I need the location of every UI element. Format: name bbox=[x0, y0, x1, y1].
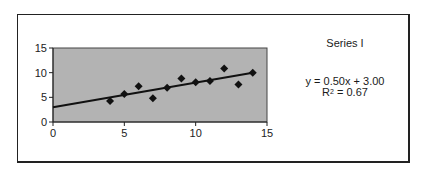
y-tick-label: 0 bbox=[41, 116, 47, 128]
x-tick-label: 10 bbox=[190, 127, 202, 139]
r-squared-text: R2 = 0.67 bbox=[280, 87, 410, 98]
x-tick-label: 0 bbox=[50, 127, 56, 139]
y-tick-label: 10 bbox=[35, 67, 47, 79]
y-tick-label: 15 bbox=[35, 42, 47, 54]
x-tick-label: 15 bbox=[261, 127, 273, 139]
series-title: Series I bbox=[300, 37, 390, 49]
regression-annotation: y = 0.50x + 3.00 R2 = 0.67 bbox=[280, 76, 410, 98]
y-tick-label: 5 bbox=[41, 91, 47, 103]
x-tick-label: 5 bbox=[121, 127, 127, 139]
